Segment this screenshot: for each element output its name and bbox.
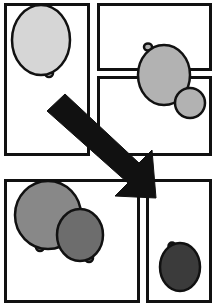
cell-light-ellipse bbox=[12, 5, 70, 75]
cell-small-dark-ellipse bbox=[57, 209, 103, 261]
figure-root bbox=[0, 0, 218, 306]
cell-budding-daughter bbox=[175, 88, 205, 118]
figure-canvas bbox=[0, 0, 218, 306]
cell-very-dark-ellipse bbox=[160, 243, 200, 291]
